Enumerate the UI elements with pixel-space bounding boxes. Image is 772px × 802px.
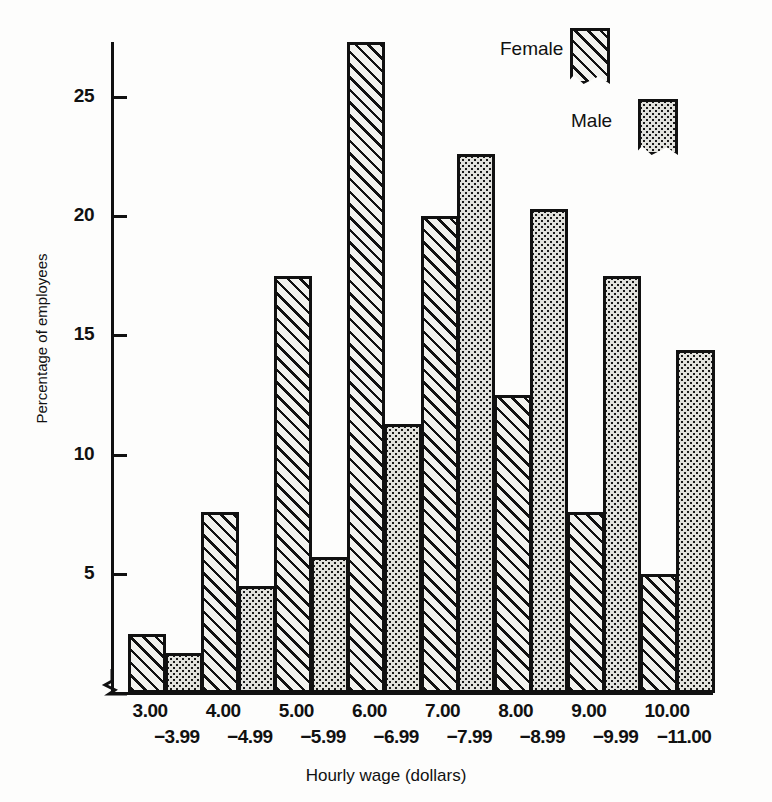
bar-male-5 [457,154,495,693]
x-tick-label-group: 8.00−8.99 [494,700,567,748]
y-axis-title: Percentage of employees [33,229,50,449]
x-tick-label-upper: −7.99 [421,726,492,748]
bar-male-7 [603,276,641,693]
bar-female-8 [640,574,678,693]
y-tick-label: 10 [60,443,94,465]
x-tick-label-group: 9.00−9.99 [567,700,640,748]
bar-male-1 [165,653,203,693]
bar-male-2 [238,586,276,693]
bar-female-1 [128,634,166,693]
x-tick-label-upper: −11.00 [640,726,711,748]
y-tick-mark [114,573,127,576]
bar-group [128,42,713,693]
bar-female-2 [201,512,239,693]
y-tick-mark [114,334,127,337]
x-tick-label-lower: 8.00 [498,700,567,722]
axis-break-icon [101,669,127,697]
x-tick-label-upper: −5.99 [275,726,346,748]
x-axis-title: Hourly wage (dollars) [0,766,772,786]
x-tick-label-lower: 3.00 [133,700,202,722]
bar-male-3 [311,557,349,693]
x-tick-label-lower: 9.00 [571,700,640,722]
x-tick-label-group: 6.00−6.99 [348,700,421,748]
x-tick-label-group: 3.00−3.99 [129,700,202,748]
x-tick-label-group: 10.00−11.00 [640,700,713,748]
x-tick-label-group: 4.00−4.99 [202,700,275,748]
bar-female-7 [567,512,605,693]
y-tick-label: 5 [60,562,94,584]
bar-male-6 [530,209,568,693]
plot-area: 510152025 Percentage of employees 3.00−3… [0,0,772,802]
legend-label-male: Male [571,110,612,132]
x-tick-label-upper: −8.99 [494,726,565,748]
x-tick-label-lower: 7.00 [425,700,494,722]
x-tick-label-upper: −6.99 [348,726,419,748]
bar-female-3 [274,276,312,693]
x-tick-label-upper: −3.99 [129,726,200,748]
x-tick-label-group: 5.00−5.99 [275,700,348,748]
x-tick-label-lower: 10.00 [644,700,713,722]
x-tick-label-lower: 4.00 [206,700,275,722]
y-tick-label: 25 [60,85,94,107]
y-axis-line [111,42,114,694]
y-tick-mark [114,215,127,218]
y-tick-label: 20 [60,204,94,226]
chart-figure: 510152025 Percentage of employees 3.00−3… [0,0,772,802]
bar-male-4 [384,424,422,693]
x-tick-label-lower: 6.00 [352,700,421,722]
legend-label-female: Female [500,38,563,60]
y-tick-mark [114,454,127,457]
x-tick-label-group: 7.00−7.99 [421,700,494,748]
bar-female-5 [421,216,459,693]
y-tick-label: 15 [60,323,94,345]
legend-swatch-female [570,28,610,84]
bar-male-8 [676,350,714,693]
x-tick-label-upper: −9.99 [567,726,638,748]
y-tick-mark [114,96,127,99]
bar-female-6 [494,395,532,693]
x-tick-label-lower: 5.00 [279,700,348,722]
bar-female-4 [347,42,385,693]
x-tick-label-upper: −4.99 [202,726,273,748]
legend-swatch-male [638,99,678,155]
